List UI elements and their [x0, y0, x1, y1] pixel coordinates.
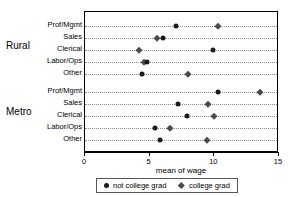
data-point-not-college-grad [152, 126, 157, 131]
row-gridline [85, 128, 277, 129]
data-point-not-college-grad [176, 102, 181, 107]
x-axis-tick [278, 152, 279, 156]
x-axis-title: mean of wage [84, 166, 278, 175]
data-point-not-college-grad [160, 36, 165, 41]
y-axis-category-labels: Prof/MgmtSalesClericalLabor/OpsOtherProf… [0, 0, 82, 197]
x-axis: 051015 [84, 152, 278, 153]
x-axis-tick [84, 152, 85, 156]
row-gridline [85, 92, 277, 93]
x-axis-tick-label: 15 [274, 157, 282, 166]
y-axis-label-prof-mgmt: Prof/Mgmt [0, 87, 82, 95]
legend-entry: not college grad [104, 181, 166, 190]
x-axis-tick [213, 152, 214, 156]
data-point-not-college-grad [185, 114, 190, 119]
y-axis-label-sales: Sales [0, 99, 82, 107]
row-gridline [85, 50, 277, 51]
data-point-not-college-grad [139, 72, 144, 77]
y-axis-label-clerical: Clerical [0, 111, 82, 119]
row-gridline [85, 104, 277, 105]
circle-marker-icon [104, 183, 109, 188]
data-point-not-college-grad [145, 60, 150, 65]
row-gridline [85, 38, 277, 39]
row-gridline [85, 62, 277, 63]
row-gridline [85, 140, 277, 141]
data-point-college-grad [256, 89, 262, 95]
y-axis-label-labor-ops: Labor/Ops [0, 123, 82, 131]
y-axis-label-sales: Sales [0, 33, 82, 41]
data-point-college-grad [211, 113, 217, 119]
y-axis-label-labor-ops: Labor/Ops [0, 57, 82, 65]
data-point-not-college-grad [158, 138, 163, 143]
plot-area [84, 11, 278, 152]
data-point-college-grad [203, 137, 209, 143]
legend-entry: college grad [178, 181, 229, 190]
y-axis-label-prof-mgmt: Prof/Mgmt [0, 21, 82, 29]
legend-label: not college grad [113, 181, 166, 190]
y-axis-label-other: Other [0, 69, 82, 77]
data-point-college-grad [136, 47, 142, 53]
data-point-college-grad [205, 101, 211, 107]
legend-label: college grad [189, 181, 230, 190]
data-point-college-grad [167, 125, 173, 131]
row-gridline [85, 74, 277, 75]
y-axis-label-clerical: Clerical [0, 45, 82, 53]
chart-legend: not college gradcollege grad [96, 178, 238, 193]
data-point-not-college-grad [216, 90, 221, 95]
x-axis-tick [149, 152, 150, 156]
row-gridline [85, 26, 277, 27]
x-axis-tick-label: 10 [209, 157, 217, 166]
data-point-college-grad [215, 23, 221, 29]
data-point-not-college-grad [173, 24, 178, 29]
dot-plot-chart: Rural Metro Prof/MgmtSalesClericalLabor/… [0, 0, 294, 197]
x-axis-tick-label: 0 [82, 157, 86, 166]
x-axis-tick-label: 5 [147, 157, 151, 166]
diamond-marker-icon [178, 182, 184, 188]
data-point-college-grad [185, 71, 191, 77]
y-axis-label-other: Other [0, 135, 82, 143]
data-point-not-college-grad [211, 48, 216, 53]
row-gridline [85, 116, 277, 117]
